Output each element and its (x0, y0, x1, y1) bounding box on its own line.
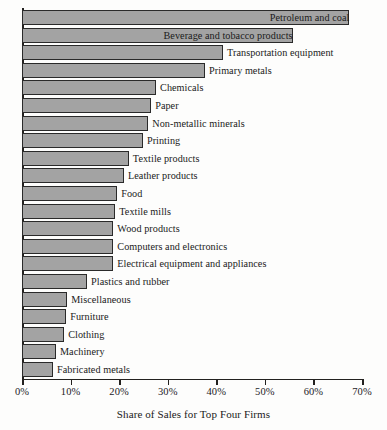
bar-row: Electrical equipment and appliances (22, 256, 364, 271)
x-axis-tick (313, 380, 315, 385)
bar-row: Computers and electronics (22, 239, 364, 254)
bar-row: Transportation equipment (22, 45, 364, 60)
bar (22, 45, 223, 60)
bar-row: Clothing (22, 327, 364, 342)
bar-row: Chemicals (22, 80, 364, 95)
x-axis-tick-label: 50% (255, 386, 275, 397)
bar-label: Beverage and tobacco products (22, 28, 293, 43)
bar (22, 239, 113, 254)
bar (22, 80, 156, 95)
x-axis-tick-label: 10% (61, 386, 81, 397)
bar-label: Electrical equipment and appliances (117, 256, 266, 271)
bar-row: Fabricated metals (22, 362, 364, 377)
bar-label: Textile products (133, 151, 200, 166)
bar (22, 98, 151, 113)
bar-label: Food (121, 186, 142, 201)
bar-row: Leather products (22, 168, 364, 183)
x-axis-tick (168, 380, 170, 385)
x-axis-tick-label: 30% (158, 386, 178, 397)
bar-label: Leather products (128, 168, 198, 183)
bar-label: Transportation equipment (227, 45, 333, 60)
bar-row: Furniture (22, 309, 364, 324)
bar-label: Fabricated metals (57, 362, 130, 377)
bar-label: Non-metallic minerals (152, 116, 244, 131)
bar-label: Petroleum and coal (22, 10, 349, 25)
bar (22, 116, 148, 131)
bar (22, 151, 129, 166)
x-axis-tick-label: 70% (352, 386, 372, 397)
bar (22, 256, 113, 271)
bar-row: Textile mills (22, 204, 364, 219)
x-axis-tick (119, 380, 121, 385)
bar-label: Furniture (70, 309, 108, 324)
bar-row: Wood products (22, 221, 364, 236)
bar-row: Plastics and rubber (22, 274, 364, 289)
bar (22, 292, 67, 307)
x-axis-tick (216, 380, 218, 385)
bar (22, 63, 205, 78)
bar-label: Miscellaneous (71, 292, 131, 307)
bar-row: Non-metallic minerals (22, 116, 364, 131)
bar (22, 344, 56, 359)
x-axis-tick (71, 380, 73, 385)
bar-label: Chemicals (160, 80, 203, 95)
plot-area: Petroleum and coalBeverage and tobacco p… (22, 8, 364, 380)
x-axis-tick-label: 0% (15, 386, 29, 397)
bar-label: Primary metals (209, 63, 272, 78)
bar-row: Miscellaneous (22, 292, 364, 307)
bar-row: Machinery (22, 344, 364, 359)
bar-label: Textile mills (119, 204, 171, 219)
x-axis-tick (22, 380, 24, 385)
bar-row: Paper (22, 98, 364, 113)
bar-row: Textile products (22, 151, 364, 166)
bar-row: Food (22, 186, 364, 201)
x-axis-title: Share of Sales for Top Four Firms (0, 408, 387, 420)
x-axis-tick-label: 40% (207, 386, 227, 397)
bar (22, 133, 143, 148)
bar-label: Clothing (68, 327, 104, 342)
bar (22, 221, 113, 236)
bar (22, 168, 124, 183)
bar-label: Wood products (117, 221, 179, 236)
bar-chart: Petroleum and coalBeverage and tobacco p… (0, 0, 387, 430)
bar (22, 309, 66, 324)
bar (22, 186, 117, 201)
bar (22, 327, 64, 342)
x-axis-tick-label: 20% (109, 386, 129, 397)
bar-label: Printing (147, 133, 180, 148)
bar-label: Plastics and rubber (91, 274, 169, 289)
bar-label: Paper (155, 98, 178, 113)
x-axis-tick (265, 380, 267, 385)
bar (22, 274, 87, 289)
bar-label: Computers and electronics (117, 239, 227, 254)
x-axis-tick (362, 380, 364, 385)
bar-row: Petroleum and coal (22, 10, 364, 25)
bar-row: Beverage and tobacco products (22, 28, 364, 43)
bar-row: Primary metals (22, 63, 364, 78)
bar-label: Machinery (60, 344, 105, 359)
bar (22, 362, 53, 377)
bar-row: Printing (22, 133, 364, 148)
x-axis-tick-label: 60% (304, 386, 324, 397)
bar (22, 204, 115, 219)
